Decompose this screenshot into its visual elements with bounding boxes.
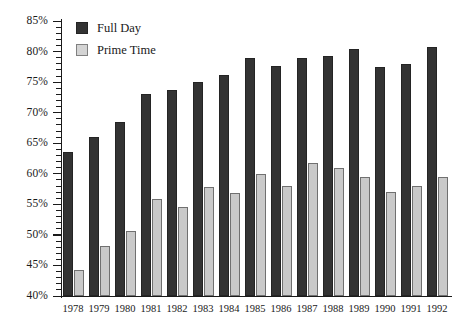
y-tick-major — [53, 296, 62, 297]
y-tick-label: 45% — [2, 259, 48, 271]
bar-group — [167, 21, 188, 296]
x-tick-label: 1978 — [60, 303, 86, 314]
y-tick-major — [53, 234, 62, 235]
bar-prime-time — [152, 199, 162, 296]
bar-group — [193, 21, 214, 296]
x-axis-line — [61, 296, 452, 297]
bar-full-day — [401, 64, 411, 296]
bar-group — [245, 21, 266, 296]
bar-prime-time — [178, 207, 188, 296]
bar-prime-time — [204, 187, 214, 296]
bar-prime-time — [386, 192, 396, 296]
bar-group — [115, 21, 136, 296]
bar-prime-time — [100, 246, 110, 296]
bar-group — [401, 21, 422, 296]
legend-item: Full Day — [76, 17, 156, 39]
bar-full-day — [245, 58, 255, 296]
y-tick-label: 50% — [2, 229, 48, 241]
bar-full-day — [141, 94, 151, 296]
x-tick-label: 1992 — [424, 303, 450, 314]
bar-full-day — [375, 67, 385, 296]
legend-swatch-prime — [76, 44, 88, 56]
bar-prime-time — [360, 177, 370, 296]
y-tick-major — [53, 82, 62, 83]
bar-group — [297, 21, 318, 296]
bar-group — [427, 21, 448, 296]
bar-group — [141, 21, 162, 296]
y-tick-major — [53, 21, 62, 22]
x-tick-label: 1985 — [242, 303, 268, 314]
bar-prime-time — [256, 174, 266, 296]
legend-label: Prime Time — [97, 44, 156, 57]
bar-prime-time — [438, 177, 448, 296]
plot-area — [62, 21, 452, 296]
bar-prime-time — [74, 270, 84, 296]
bar-full-day — [427, 47, 437, 296]
bar-full-day — [297, 58, 307, 296]
bar-full-day — [349, 49, 359, 296]
y-tick-label: 40% — [2, 290, 48, 302]
y-tick-label: 85% — [2, 15, 48, 27]
x-tick-label: 1982 — [164, 303, 190, 314]
x-tick-label: 1989 — [346, 303, 372, 314]
bar-full-day — [323, 56, 333, 296]
x-tick-label: 1987 — [294, 303, 320, 314]
bar-prime-time — [230, 193, 240, 296]
bar-prime-time — [282, 186, 292, 296]
y-tick-label: 75% — [2, 76, 48, 88]
bar-full-day — [219, 75, 229, 296]
bar-prime-time — [412, 186, 422, 296]
bar-group — [63, 21, 84, 296]
bar-prime-time — [126, 231, 136, 296]
x-tick-label: 1984 — [216, 303, 242, 314]
y-tick-label: 65% — [2, 137, 48, 149]
bar-chart: 40%45%50%55%60%65%70%75%80%85% 197819791… — [0, 0, 460, 331]
bar-group — [219, 21, 240, 296]
y-tick-label: 55% — [2, 198, 48, 210]
y-tick-major — [53, 173, 62, 174]
bar-full-day — [167, 90, 177, 296]
x-tick-label: 1979 — [86, 303, 112, 314]
x-tick-label: 1990 — [372, 303, 398, 314]
legend-label: Full Day — [97, 22, 141, 35]
legend-swatch-full — [76, 22, 88, 34]
x-tick-label: 1981 — [138, 303, 164, 314]
bar-group — [271, 21, 292, 296]
y-tick-major — [53, 51, 62, 52]
y-tick-label: 80% — [2, 46, 48, 58]
bar-group — [375, 21, 396, 296]
legend-item: Prime Time — [76, 39, 156, 61]
bar-prime-time — [334, 168, 344, 296]
bar-full-day — [115, 122, 125, 296]
x-tick-label: 1986 — [268, 303, 294, 314]
bar-prime-time — [308, 163, 318, 296]
bar-group — [89, 21, 110, 296]
y-tick-major — [53, 204, 62, 205]
bar-full-day — [193, 82, 203, 296]
bar-full-day — [271, 66, 281, 296]
x-tick-label: 1980 — [112, 303, 138, 314]
x-tick-label: 1988 — [320, 303, 346, 314]
y-tick-label: 70% — [2, 107, 48, 119]
bar-full-day — [63, 152, 73, 296]
chart-legend: Full DayPrime Time — [76, 17, 156, 61]
y-tick-major — [53, 112, 62, 113]
x-tick-label: 1991 — [398, 303, 424, 314]
x-tick-label: 1983 — [190, 303, 216, 314]
bar-group — [323, 21, 344, 296]
y-tick-major — [53, 265, 62, 266]
bar-group — [349, 21, 370, 296]
y-tick-major — [53, 143, 62, 144]
bar-full-day — [89, 137, 99, 296]
y-tick-label: 60% — [2, 168, 48, 180]
